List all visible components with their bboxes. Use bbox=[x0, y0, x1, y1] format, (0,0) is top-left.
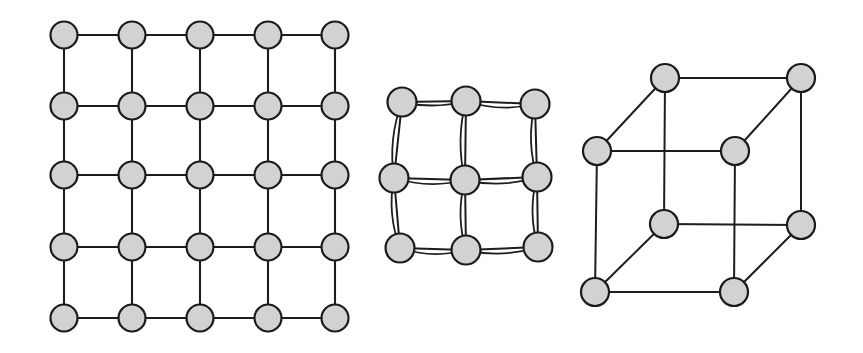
distorted-lattice-node-circle bbox=[452, 87, 481, 116]
lattice-node[interactable] bbox=[51, 162, 78, 189]
distorted-lattice-node[interactable] bbox=[452, 236, 481, 265]
lattice-node-circle bbox=[255, 234, 282, 261]
lattice-node[interactable] bbox=[187, 22, 214, 49]
lattice-node-circle bbox=[51, 93, 78, 120]
lattice-node-circle bbox=[51, 234, 78, 261]
cube-node-circle bbox=[720, 278, 748, 306]
lattice-node[interactable] bbox=[51, 234, 78, 261]
distorted-lattice-node[interactable] bbox=[524, 233, 553, 262]
lattice-node[interactable] bbox=[187, 93, 214, 120]
lattice-node[interactable] bbox=[119, 22, 146, 49]
lattice-node[interactable] bbox=[255, 22, 282, 49]
distorted-lattice-node-circle bbox=[452, 236, 481, 265]
lattice-node-circle bbox=[119, 162, 146, 189]
distorted-lattice-node-circle bbox=[524, 233, 553, 262]
cube-node[interactable] bbox=[581, 278, 609, 306]
lattice-node[interactable] bbox=[119, 93, 146, 120]
lattice-node-circle bbox=[187, 305, 214, 332]
cube-edge bbox=[664, 78, 665, 224]
lattice-node-circle bbox=[119, 234, 146, 261]
lattice-node-circle bbox=[119, 93, 146, 120]
lattice-node[interactable] bbox=[255, 305, 282, 332]
lattice-node[interactable] bbox=[322, 93, 349, 120]
lattice-node[interactable] bbox=[119, 305, 146, 332]
lattice-node-circle bbox=[187, 93, 214, 120]
lattice-node[interactable] bbox=[187, 305, 214, 332]
lattice-node[interactable] bbox=[322, 305, 349, 332]
distorted-lattice-node-circle bbox=[523, 163, 552, 192]
lattice-node[interactable] bbox=[322, 22, 349, 49]
distorted-lattice-node[interactable] bbox=[386, 234, 415, 263]
cube-node[interactable] bbox=[650, 210, 678, 238]
distorted-lattice-node[interactable] bbox=[451, 166, 480, 195]
cube-node-circle bbox=[787, 211, 815, 239]
distorted-lattice-node-circle bbox=[451, 166, 480, 195]
lattice-node-circle bbox=[187, 22, 214, 49]
cube-edge bbox=[734, 151, 735, 292]
cube-node-circle bbox=[787, 64, 815, 92]
lattice-figure bbox=[0, 0, 863, 353]
lattice-node[interactable] bbox=[119, 162, 146, 189]
distorted-lattice-node[interactable] bbox=[388, 88, 417, 117]
lattice-node[interactable] bbox=[51, 305, 78, 332]
cube-edge bbox=[664, 224, 801, 225]
lattice-node[interactable] bbox=[255, 93, 282, 120]
distorted-lattice-nodes bbox=[380, 87, 553, 265]
lattice-node-circle bbox=[322, 93, 349, 120]
lattice-node-circle bbox=[255, 93, 282, 120]
lattice-node[interactable] bbox=[51, 22, 78, 49]
lattice-node-circle bbox=[255, 22, 282, 49]
lattice-node[interactable] bbox=[187, 162, 214, 189]
distorted-lattice-node[interactable] bbox=[452, 87, 481, 116]
cube-node[interactable] bbox=[720, 278, 748, 306]
distorted-lattice-node[interactable] bbox=[521, 90, 550, 119]
lattice-node-circle bbox=[255, 305, 282, 332]
lattice-node-circle bbox=[322, 234, 349, 261]
lattice-node-circle bbox=[119, 22, 146, 49]
distorted-lattice-node[interactable] bbox=[523, 163, 552, 192]
distorted-lattice-node-circle bbox=[386, 234, 415, 263]
cube-node-circle bbox=[583, 137, 611, 165]
cube-node[interactable] bbox=[721, 137, 749, 165]
cube-node[interactable] bbox=[583, 137, 611, 165]
distorted-lattice-node-circle bbox=[380, 164, 409, 193]
lattice-node-circle bbox=[51, 162, 78, 189]
lattice-node[interactable] bbox=[322, 234, 349, 261]
lattice-node-circle bbox=[255, 162, 282, 189]
lattice-node[interactable] bbox=[119, 234, 146, 261]
lattice-node[interactable] bbox=[255, 234, 282, 261]
lattice-node[interactable] bbox=[187, 234, 214, 261]
cube-node-circle bbox=[721, 137, 749, 165]
lattice-node[interactable] bbox=[255, 162, 282, 189]
cube-node-circle bbox=[650, 210, 678, 238]
distorted-lattice-node-circle bbox=[521, 90, 550, 119]
distorted-lattice-panel bbox=[380, 87, 553, 265]
cube-node[interactable] bbox=[651, 64, 679, 92]
distorted-lattice-node[interactable] bbox=[380, 164, 409, 193]
lattice-node-circle bbox=[51, 305, 78, 332]
cube-node-circle bbox=[581, 278, 609, 306]
lattice-node[interactable] bbox=[322, 162, 349, 189]
lattice-node-circle bbox=[187, 162, 214, 189]
cube-node[interactable] bbox=[787, 211, 815, 239]
distorted-lattice-node-circle bbox=[388, 88, 417, 117]
lattice-node-circle bbox=[322, 22, 349, 49]
cube-node-circle bbox=[651, 64, 679, 92]
cube-node[interactable] bbox=[787, 64, 815, 92]
lattice-node-circle bbox=[51, 22, 78, 49]
lattice-node-circle bbox=[322, 162, 349, 189]
lattice-node-circle bbox=[119, 305, 146, 332]
lattice-node-circle bbox=[322, 305, 349, 332]
lattice-node-circle bbox=[187, 234, 214, 261]
lattice-node[interactable] bbox=[51, 93, 78, 120]
